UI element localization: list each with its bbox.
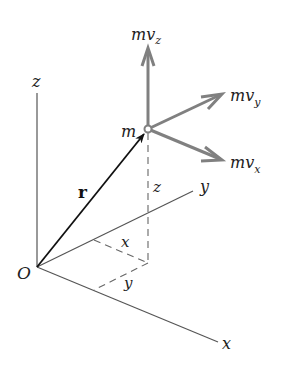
momentum-vx-label: mvx <box>230 153 261 176</box>
momentum-vy-label: mvy <box>230 86 261 109</box>
momentum-vz-label: mvz <box>131 25 161 47</box>
origin-label: O <box>17 263 31 283</box>
x-axis-label: x <box>222 334 231 353</box>
particle-m-dot <box>145 126 152 133</box>
momentum-vx-arrow <box>148 129 222 161</box>
angular-momentum-diagram: O z y x r m z x y mvz mvy mvx <box>0 0 284 372</box>
z-axis-label: z <box>31 72 41 91</box>
y-component-label: y <box>123 274 133 292</box>
z-component-label: z <box>152 178 161 196</box>
momentum-vz-arrow <box>142 48 154 129</box>
dashed-y-component <box>94 263 148 290</box>
y-axis <box>37 191 193 267</box>
x-component-label: x <box>121 233 130 251</box>
y-axis-label: y <box>199 177 210 196</box>
momentum-vy-arrow <box>148 94 222 129</box>
particle-label: m <box>121 122 136 141</box>
position-vector-label: r <box>78 182 88 202</box>
